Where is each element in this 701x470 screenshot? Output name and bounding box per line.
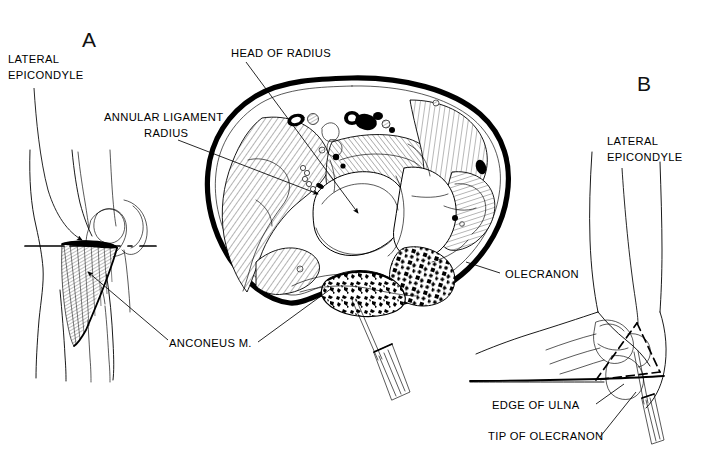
panel-a-letter: A [82,28,97,51]
label-head-of-radius: HEAD OF RADIUS [231,47,331,59]
label-lateral-epicondyle-a-line1: LATERAL [8,53,59,65]
panel-b-letter: B [637,72,652,95]
label-tip-of-olecranon: TIP OF OLECRANON [488,430,603,442]
label-olecranon: OLECRANON [505,268,579,280]
anatomy-figure: A B LATERAL EPICONDYLE HEAD OF RADIUS AN… [0,0,701,470]
label-anconeus: ANCONEUS M. [169,337,252,349]
label-edge-of-ulna: EDGE OF ULNA [492,399,580,411]
label-lateral-epicondyle-a-line2: EPICONDYLE [8,69,84,81]
label-lateral-epicondyle-b-line1: LATERAL [607,135,658,147]
label-annular-ligament: ANNULAR LIGAMENT [104,111,223,123]
label-lateral-epicondyle-b-line2: EPICONDYLE [607,151,683,163]
label-radius: RADIUS [144,127,188,139]
